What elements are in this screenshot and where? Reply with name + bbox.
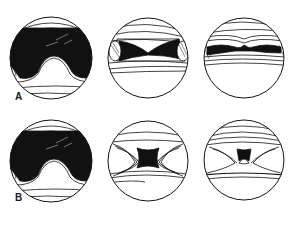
panel-b2-constricted-cavity — [105, 118, 191, 204]
endoscopic-views-figure: A B — [0, 0, 293, 225]
panel-a2-hourglass-cavity — [105, 15, 191, 101]
panel-a1-wide-cavity — [6, 14, 96, 102]
panel-b1-wide-cavity — [6, 117, 96, 205]
panel-a3-slit-cavity — [201, 15, 287, 101]
panel-b3-pinpoint-cavity — [201, 117, 287, 203]
